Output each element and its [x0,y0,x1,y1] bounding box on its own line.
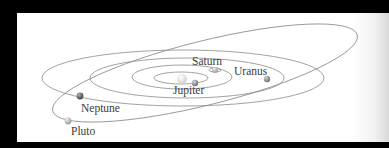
planet-pluto-icon [65,118,72,125]
planet-neptune-icon [77,93,84,100]
label-saturn: Saturn [192,55,222,67]
planet-saturn-icon [209,67,221,73]
label-jupiter: Jupiter [173,84,204,97]
label-neptune: Neptune [81,102,120,115]
label-uranus: Uranus [234,65,268,77]
label-pluto: Pluto [71,125,96,137]
solar-system-diagram: Saturn Uranus Jupiter Neptune Pluto [0,0,389,148]
sun-icon [177,74,187,84]
